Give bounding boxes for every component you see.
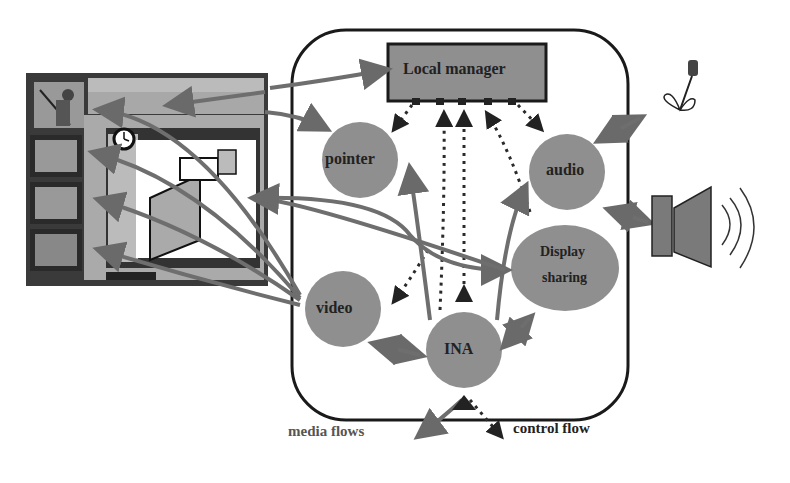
microphone-icon <box>664 60 698 110</box>
workstation-screen <box>26 73 268 286</box>
display-sharing-label-2: sharing <box>542 270 587 286</box>
ina-label: INA <box>444 340 473 358</box>
audio-label: audio <box>546 161 584 179</box>
speaker-icon <box>652 187 754 268</box>
diagram-canvas <box>0 0 790 483</box>
legend-media-flows: media flows <box>288 423 364 440</box>
video-label: video <box>316 299 352 317</box>
display-sharing-label-1: Display <box>540 244 585 260</box>
pointer-label: pointer <box>325 150 375 168</box>
legend-control-flow: control flow <box>513 420 590 437</box>
display-sharing-node <box>511 225 619 311</box>
local-manager-label: Local manager <box>403 60 506 78</box>
